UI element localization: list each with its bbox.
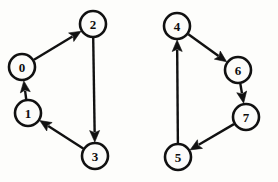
graph-node-4[interactable]: 4 xyxy=(164,13,190,39)
edge-line xyxy=(25,91,26,99)
graph-node-2[interactable]: 2 xyxy=(80,11,106,37)
graph-node-0[interactable]: 0 xyxy=(9,54,35,80)
node-label: 6 xyxy=(235,63,242,78)
edge-line xyxy=(240,84,242,94)
graph-node-1[interactable]: 1 xyxy=(15,100,41,126)
edge-line xyxy=(199,124,234,145)
node-label: 5 xyxy=(175,150,182,165)
diagram-canvas: 01234567 xyxy=(0,0,278,182)
edge-line xyxy=(48,126,83,148)
edge-6-to-7 xyxy=(237,84,247,103)
arrow-head-icon xyxy=(172,40,182,52)
node-label: 1 xyxy=(25,106,32,121)
edge-3-to-1 xyxy=(40,121,83,149)
edges-layer xyxy=(20,31,246,150)
arrow-head-icon xyxy=(40,121,52,131)
arrow-head-icon xyxy=(214,51,226,62)
node-label: 2 xyxy=(90,17,97,32)
node-label: 7 xyxy=(243,110,250,125)
edge-4-to-6 xyxy=(188,34,226,62)
node-label: 3 xyxy=(92,149,99,164)
arrow-head-icon xyxy=(90,130,100,142)
graph-node-7[interactable]: 7 xyxy=(233,104,259,130)
edge-line xyxy=(177,50,178,143)
node-label: 0 xyxy=(19,60,26,75)
edge-line xyxy=(34,36,72,59)
graph-node-6[interactable]: 6 xyxy=(225,57,251,83)
edge-line xyxy=(93,38,94,132)
edge-7-to-5 xyxy=(190,124,234,150)
graph-node-3[interactable]: 3 xyxy=(82,143,108,169)
node-label: 4 xyxy=(174,19,181,34)
graph-node-5[interactable]: 5 xyxy=(165,144,191,170)
edge-1-to-0 xyxy=(20,81,30,99)
edge-5-to-4 xyxy=(172,40,182,143)
edge-line xyxy=(188,34,218,56)
edge-2-to-3 xyxy=(90,38,100,142)
nodes-layer: 01234567 xyxy=(9,11,259,170)
directed-graph: 01234567 xyxy=(0,0,278,182)
edge-0-to-2 xyxy=(34,31,81,60)
